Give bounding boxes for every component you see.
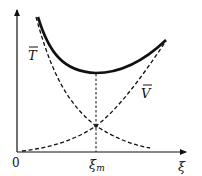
curve-total [38,17,166,73]
x-axis-label: ξ [178,159,186,174]
xi-m-label: ξm [89,157,105,173]
label-v-bar: V [141,86,152,101]
label-t-bar: T [28,48,38,63]
xi-m-label-sub: m [96,163,105,173]
origin-label: 0 [12,156,20,170]
intersection-point [94,124,98,128]
diagram-canvas: T V 0 ξm ξ [0,0,202,176]
